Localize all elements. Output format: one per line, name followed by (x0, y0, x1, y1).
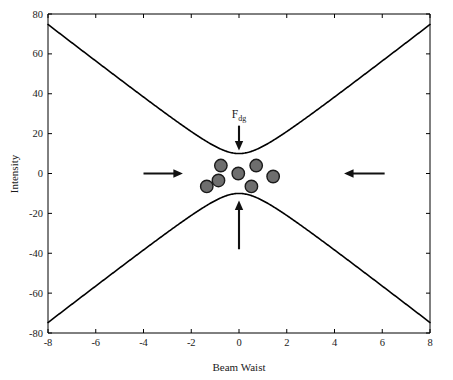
x-tick-label: -6 (91, 337, 100, 348)
y-tick-label: -20 (29, 208, 43, 219)
x-tick-label: 6 (380, 337, 385, 348)
y-tick-label: 80 (33, 9, 44, 20)
x-tick-label: 2 (284, 337, 289, 348)
y-tick-label: 60 (33, 48, 44, 59)
trapped-particle (245, 180, 257, 192)
x-axis-tick-labels: -8-6-4-202468 (44, 337, 433, 348)
y-tick-label: -40 (29, 248, 43, 259)
y-axis-tick-labels: -80-60-40-20020406080 (29, 9, 43, 339)
y-tick-label: 0 (38, 168, 43, 179)
y-axis-title: Intensity (8, 154, 20, 193)
y-tick-label: -80 (29, 328, 43, 339)
x-tick-label: 4 (332, 337, 338, 348)
y-tick-label: -60 (29, 288, 43, 299)
trapped-particle (232, 167, 244, 179)
x-tick-label: 0 (236, 337, 241, 348)
plot-canvas: -8-6-4-202468 -80-60-40-20020406080 Beam… (0, 0, 453, 380)
y-tick-label: 20 (33, 128, 44, 139)
x-tick-label: -2 (187, 337, 196, 348)
x-tick-label: -4 (139, 337, 148, 348)
trapped-particle (212, 174, 224, 186)
trapped-particle (250, 159, 262, 171)
x-tick-label: -8 (44, 337, 53, 348)
y-tick-label: 40 (33, 88, 44, 99)
force-subscript: dg (238, 114, 246, 123)
trapped-particle (215, 159, 227, 171)
trapped-particle (267, 170, 279, 182)
trapped-particle (201, 180, 213, 192)
x-axis-title: Beam Waist (213, 361, 266, 373)
x-tick-label: 8 (427, 337, 432, 348)
beam-waist-intensity-figure: -8-6-4-202468 -80-60-40-20020406080 Beam… (0, 0, 453, 380)
